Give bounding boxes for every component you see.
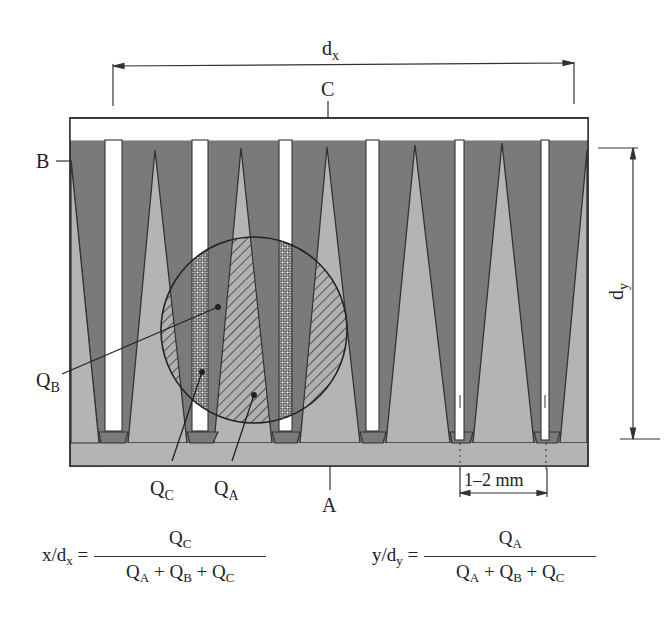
dx-dimension xyxy=(113,61,574,107)
dy-label: dy xyxy=(605,283,631,300)
electrode-a-label: A xyxy=(322,494,337,516)
electrode-b-label: B xyxy=(36,150,49,172)
electrode-c-label: C xyxy=(321,78,334,100)
formula-y-lhs: y/dy = xyxy=(372,544,418,569)
qc-label: QC xyxy=(150,477,174,503)
formula-x-lhs: x/dx = xyxy=(42,544,88,569)
region-c-band xyxy=(70,118,588,140)
qb-label: QB xyxy=(36,369,60,395)
dx-label: dx xyxy=(322,37,339,63)
formula-y-fraction: QA QA + QB + QC xyxy=(424,527,596,586)
formula-x: x/dx = QC QA + QB + QC xyxy=(42,527,266,586)
gap-label: 1–2 mm xyxy=(464,470,524,490)
formula-x-fraction: QC QA + QB + QC xyxy=(94,527,266,586)
qa-label: QA xyxy=(214,477,239,503)
formula-y: y/dy = QA QA + QB + QC xyxy=(372,527,596,586)
